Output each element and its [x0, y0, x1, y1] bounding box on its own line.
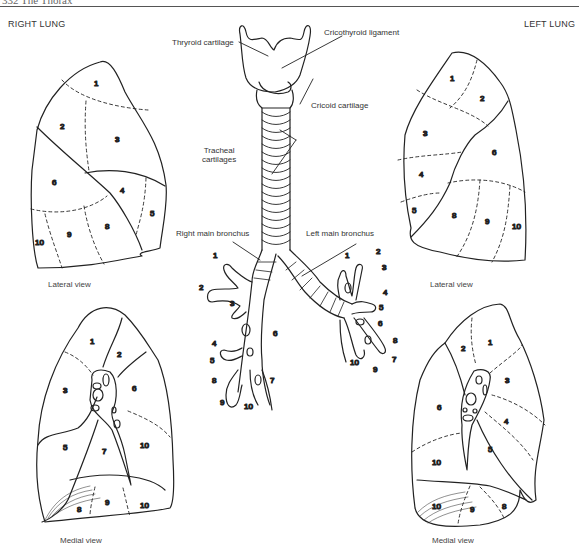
svg-text:10: 10	[140, 501, 149, 510]
svg-text:5: 5	[150, 209, 155, 218]
svg-text:1: 1	[90, 337, 95, 346]
caption-left-lateral: Lateral view	[430, 280, 473, 289]
svg-text:1: 1	[213, 251, 218, 260]
left-lung-medial: 123 456 101098	[412, 304, 545, 526]
svg-text:3: 3	[63, 386, 68, 395]
label-tracheal-line2: cartilages	[202, 155, 236, 164]
label-thyroid-cartilage: Thryroid cartilage	[172, 38, 234, 47]
caption-right-medial: Medial view	[60, 536, 102, 545]
svg-text:10: 10	[35, 238, 44, 247]
svg-text:8: 8	[393, 336, 398, 345]
svg-text:3: 3	[423, 129, 428, 138]
svg-text:4: 4	[504, 417, 509, 426]
label-cricothyroid-ligament: Cricothyroid ligament	[324, 28, 399, 37]
svg-text:2: 2	[376, 247, 381, 256]
label-tracheal-cartilages: Tracheal cartilages	[202, 146, 236, 164]
svg-text:10: 10	[140, 441, 149, 450]
svg-text:6: 6	[378, 319, 383, 328]
left-lung-lateral: 123 645 8910	[398, 52, 526, 262]
svg-text:3: 3	[230, 299, 235, 308]
svg-text:6: 6	[492, 148, 497, 157]
svg-text:5: 5	[63, 443, 68, 452]
svg-text:8: 8	[212, 376, 217, 385]
larynx-trachea: 123 456 78910 123 456 78910	[199, 26, 398, 411]
svg-text:9: 9	[485, 217, 490, 226]
svg-text:5: 5	[379, 303, 384, 312]
svg-text:2: 2	[199, 283, 204, 292]
svg-text:1: 1	[488, 338, 493, 347]
svg-text:6: 6	[273, 329, 278, 338]
svg-text:6: 6	[132, 384, 137, 393]
svg-text:5: 5	[488, 445, 493, 454]
svg-text:4: 4	[120, 186, 125, 195]
svg-text:4: 4	[419, 170, 424, 179]
svg-text:8: 8	[502, 502, 507, 511]
svg-text:6: 6	[52, 178, 57, 187]
caption-left-medial: Medial view	[432, 536, 474, 545]
svg-text:1: 1	[450, 74, 455, 83]
label-left-main-bronchus: Left main bronchus	[306, 229, 374, 238]
label-right-main-bronchus: Right main bronchus	[176, 229, 249, 238]
svg-text:7: 7	[392, 355, 397, 364]
svg-text:5: 5	[210, 356, 215, 365]
svg-text:2: 2	[117, 350, 122, 359]
label-tracheal-line1: Tracheal	[202, 146, 236, 155]
svg-text:2: 2	[60, 122, 65, 131]
svg-text:7: 7	[102, 447, 107, 456]
svg-text:8: 8	[77, 505, 82, 514]
svg-text:4: 4	[383, 288, 388, 297]
svg-text:9: 9	[105, 498, 110, 507]
svg-text:9: 9	[373, 365, 378, 374]
svg-text:1: 1	[345, 251, 350, 260]
caption-right-lateral: Lateral view	[48, 280, 91, 289]
svg-text:3: 3	[115, 135, 120, 144]
svg-text:8: 8	[105, 222, 110, 231]
svg-text:10: 10	[512, 222, 521, 231]
svg-text:9: 9	[220, 398, 225, 407]
svg-text:1: 1	[94, 79, 99, 88]
svg-text:7: 7	[270, 376, 275, 385]
svg-text:4: 4	[212, 339, 217, 348]
svg-text:2: 2	[461, 344, 466, 353]
svg-text:8: 8	[452, 211, 457, 220]
svg-text:2: 2	[480, 94, 485, 103]
svg-text:3: 3	[382, 263, 387, 272]
svg-text:9: 9	[470, 505, 475, 514]
svg-text:9: 9	[67, 230, 72, 239]
svg-text:5: 5	[412, 206, 417, 215]
right-lung-lateral: 123 456 8910	[31, 61, 166, 268]
svg-text:10: 10	[350, 358, 359, 367]
svg-text:10: 10	[432, 502, 441, 511]
svg-text:3: 3	[505, 376, 510, 385]
svg-text:6: 6	[437, 403, 442, 412]
label-cricoid-cartilage: Cricoid cartilage	[311, 101, 368, 110]
right-lung-medial: 123 657 108910	[37, 308, 174, 522]
svg-text:10: 10	[244, 402, 253, 411]
svg-text:10: 10	[432, 458, 441, 467]
